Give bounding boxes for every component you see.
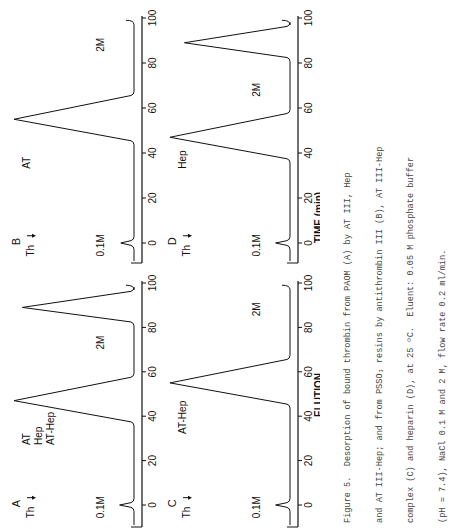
x-tick-label: 100 bbox=[147, 9, 158, 26]
x-tick-label: 20 bbox=[147, 192, 158, 204]
annotation-label: Th bbox=[181, 245, 192, 257]
chromatogram-trace bbox=[14, 285, 134, 525]
annotation-label: Th bbox=[181, 507, 192, 519]
panel-label: D bbox=[166, 237, 178, 245]
x-tick-label: 80 bbox=[303, 321, 314, 333]
caption-line: and AT III-Hep; and from PSSO₃ resins by… bbox=[375, 3, 386, 523]
x-tick-label: 60 bbox=[303, 102, 314, 114]
annotation-label: AT bbox=[21, 433, 32, 445]
annotation-label: 0.1M bbox=[95, 234, 106, 256]
x-tick-label: 40 bbox=[147, 147, 158, 159]
annotation-label: 2M bbox=[95, 38, 106, 52]
x-tick-label: 40 bbox=[147, 410, 158, 422]
annotation-label: AT-Hep bbox=[45, 411, 56, 445]
x-tick-label: 100 bbox=[147, 274, 158, 291]
caption-line: Figure 5. Desorption of bound thrombin f… bbox=[343, 3, 354, 523]
arrow-head-icon bbox=[188, 234, 192, 238]
annotation-label: 0.1M bbox=[251, 234, 262, 256]
annotation-label: Th bbox=[25, 245, 36, 257]
x-tick-label: 100 bbox=[303, 274, 314, 291]
x-tick-label: 80 bbox=[147, 57, 158, 69]
panel-label: A bbox=[10, 499, 22, 507]
annotation-label: Th bbox=[25, 507, 36, 519]
chromatogram-trace bbox=[170, 20, 290, 261]
x-tick-label: 60 bbox=[147, 366, 158, 378]
x-tick-label: 0 bbox=[147, 240, 158, 246]
annotation-label: Hep bbox=[177, 150, 188, 169]
figure-caption: Figure 5. Desorption of bound thrombin f… bbox=[322, 3, 452, 523]
annotation-label: 2M bbox=[251, 83, 262, 97]
x-tick-label: 100 bbox=[303, 9, 314, 26]
arrow-head-icon bbox=[32, 234, 36, 238]
x-axis-title-time: TIME (min) bbox=[313, 192, 320, 243]
arrow-head-icon bbox=[32, 496, 36, 500]
x-tick-label: 80 bbox=[147, 321, 158, 333]
x-tick-label: 20 bbox=[303, 455, 314, 467]
panel-label: C bbox=[166, 499, 178, 507]
chromatogram-trace bbox=[170, 285, 290, 525]
panel-label: B bbox=[10, 238, 22, 245]
x-tick-label: 80 bbox=[303, 57, 314, 69]
chromatogram-panels: 020406080100ATh0.1MATHepAT-Hep2M02040608… bbox=[0, 0, 320, 529]
arrow-head-icon bbox=[188, 496, 192, 500]
x-tick-label: 20 bbox=[147, 455, 158, 467]
x-tick-label: 0 bbox=[303, 502, 314, 508]
x-tick-label: 60 bbox=[147, 102, 158, 114]
annotation-label: 2M bbox=[95, 336, 106, 350]
annotation-label: 0.1M bbox=[95, 496, 106, 518]
annotation-label: Hep bbox=[33, 426, 44, 445]
annotation-label: AT bbox=[21, 157, 32, 169]
chromatogram-trace bbox=[14, 20, 134, 261]
x-axis-title-elution: ELUTION bbox=[313, 373, 320, 417]
x-tick-label: 0 bbox=[147, 502, 158, 508]
caption-line: complex (C) and heparin (D), at 25 ºC. E… bbox=[406, 3, 417, 523]
caption-line: (pH = 7.4), NaCl 0.1 M and 2 M, flow rat… bbox=[438, 3, 449, 523]
annotation-label: AT-Hep bbox=[177, 400, 188, 434]
annotation-label: 0.1M bbox=[251, 496, 262, 518]
x-tick-label: 40 bbox=[303, 147, 314, 159]
annotation-label: 2M bbox=[251, 302, 262, 316]
